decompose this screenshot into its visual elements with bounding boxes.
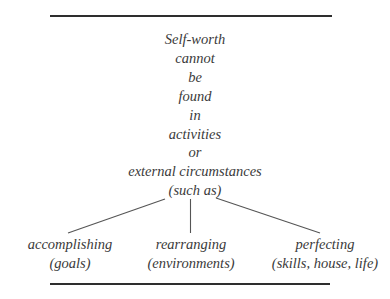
- branch-label: rearranging: [130, 235, 252, 254]
- branch-detail: (environments): [130, 254, 252, 273]
- connector-left: [68, 199, 165, 233]
- branch-label: perfecting: [262, 235, 388, 254]
- branch-accomplishing: accomplishing (goals): [5, 235, 135, 272]
- branch-detail: (skills, house, life): [262, 254, 388, 273]
- connector-right: [216, 198, 320, 233]
- branch-perfecting: perfecting (skills, house, life): [262, 235, 388, 272]
- branch-detail: (goals): [5, 254, 135, 273]
- branch-rearranging: rearranging (environments): [130, 235, 252, 272]
- branch-label: accomplishing: [5, 235, 135, 254]
- bottom-rule: [50, 283, 330, 285]
